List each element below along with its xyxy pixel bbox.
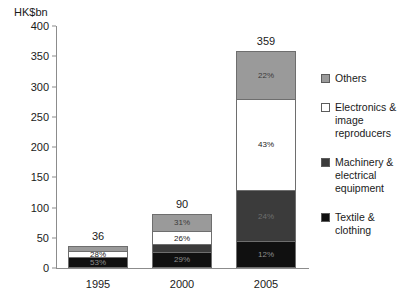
- y-axis-tick-label: 50: [37, 232, 49, 244]
- bar-total-label: 359: [257, 35, 275, 47]
- legend-item-label: Electronics & image reproducers: [335, 101, 407, 140]
- y-axis-tick-label: 350: [31, 50, 49, 62]
- legend-swatch-icon: [321, 213, 330, 222]
- bar-total-label: 36: [92, 230, 104, 242]
- segment-percent-label: 26%: [174, 234, 190, 243]
- legend-item-electronics[interactable]: Electronics & image reproducers: [321, 101, 407, 140]
- y-axis-tick-mark: [52, 116, 56, 117]
- segment-percent-label: 31%: [174, 218, 190, 227]
- legend-swatch-icon: [321, 74, 330, 83]
- bar-segment-others[interactable]: 31%: [153, 215, 211, 231]
- y-axis-tick-mark: [52, 86, 56, 87]
- y-axis-tick-mark: [52, 147, 56, 148]
- legend-item-textile[interactable]: Textile & clothing: [321, 211, 407, 237]
- segment-percent-label: 12%: [258, 250, 274, 259]
- bar-total-label: 90: [176, 198, 188, 210]
- bar-segment-textile[interactable]: 29%: [153, 252, 211, 267]
- chart-legend: OthersElectronics & image reproducersMac…: [321, 72, 407, 253]
- bar-segment-textile[interactable]: 12%: [237, 241, 295, 267]
- y-axis-tick-label: 150: [31, 171, 49, 183]
- bar-segment-machinery[interactable]: 24%: [237, 190, 295, 241]
- y-axis-tick-mark: [52, 207, 56, 208]
- legend-swatch-icon: [321, 103, 330, 112]
- stacked-bar-chart: HK$bn 0501001502002503003504003628%53%90…: [0, 0, 408, 307]
- bar-segment-others[interactable]: 22%: [237, 52, 295, 99]
- y-axis-tick-mark: [52, 177, 56, 178]
- segment-percent-label: 22%: [258, 71, 274, 80]
- y-axis-tick-mark: [52, 268, 56, 269]
- x-axis-line: [56, 268, 309, 269]
- y-axis-tick-label: 300: [31, 81, 49, 93]
- y-axis-tick-mark: [52, 56, 56, 57]
- bar-segment-machinery[interactable]: [153, 244, 211, 251]
- segment-percent-label: 29%: [174, 255, 190, 264]
- bar-segment-electronics[interactable]: 43%: [237, 99, 295, 191]
- y-axis-tick-mark: [52, 237, 56, 238]
- y-axis-tick-label: 100: [31, 202, 49, 214]
- y-axis-tick-label: 250: [31, 111, 49, 123]
- legend-item-label: Textile & clothing: [335, 211, 407, 237]
- legend-swatch-icon: [321, 158, 330, 167]
- x-axis-tick-label-1995: 1995: [86, 278, 110, 290]
- legend-item-others[interactable]: Others: [321, 72, 407, 85]
- segment-percent-label: 24%: [258, 212, 274, 221]
- x-axis-tick-label-2005: 2005: [254, 278, 278, 290]
- y-axis-tick-label: 400: [31, 20, 49, 32]
- plot-area: 0501001502002503003504003628%53%9031%26%…: [56, 26, 308, 268]
- bar-2005[interactable]: 35922%43%24%12%: [236, 51, 296, 268]
- y-axis-tick-label: 0: [43, 262, 49, 274]
- legend-item-label: Others: [335, 72, 367, 85]
- segment-percent-label: 43%: [258, 140, 274, 149]
- bar-segment-textile[interactable]: 53%: [69, 257, 127, 267]
- bar-1995[interactable]: 3628%53%: [68, 246, 128, 268]
- segment-percent-label: 53%: [90, 258, 106, 267]
- legend-item-machinery[interactable]: Machinery & electrical equipment: [321, 156, 407, 195]
- bar-segment-electronics[interactable]: 26%: [153, 231, 211, 245]
- x-axis-tick-label-2000: 2000: [170, 278, 194, 290]
- y-axis-unit-label: HK$bn: [14, 6, 48, 18]
- y-axis-tick-mark: [52, 26, 56, 27]
- legend-item-label: Machinery & electrical equipment: [335, 156, 407, 195]
- bar-2000[interactable]: 9031%26%29%: [152, 214, 212, 268]
- y-axis-tick-label: 200: [31, 141, 49, 153]
